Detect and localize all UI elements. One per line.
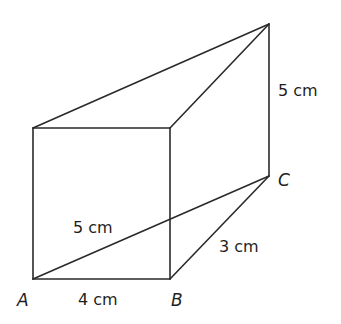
vertex-C: C: [278, 170, 290, 190]
edge-top-left-to-apex: [33, 24, 269, 128]
vertex-A: A: [16, 290, 29, 310]
edge-AC: [33, 176, 269, 279]
edge-top-right-to-apex: [170, 24, 269, 128]
label-AC: 5 cm: [73, 218, 113, 237]
edge-BC: [170, 176, 269, 279]
label-AB: 4 cm: [78, 290, 118, 309]
prism-svg: 5 cm 5 cm 3 cm 4 cm A B C: [0, 0, 341, 324]
label-height: 5 cm: [278, 81, 318, 100]
prism-diagram: 5 cm 5 cm 3 cm 4 cm A B C: [0, 0, 341, 324]
label-BC: 3 cm: [219, 237, 259, 256]
vertex-B: B: [171, 290, 183, 310]
